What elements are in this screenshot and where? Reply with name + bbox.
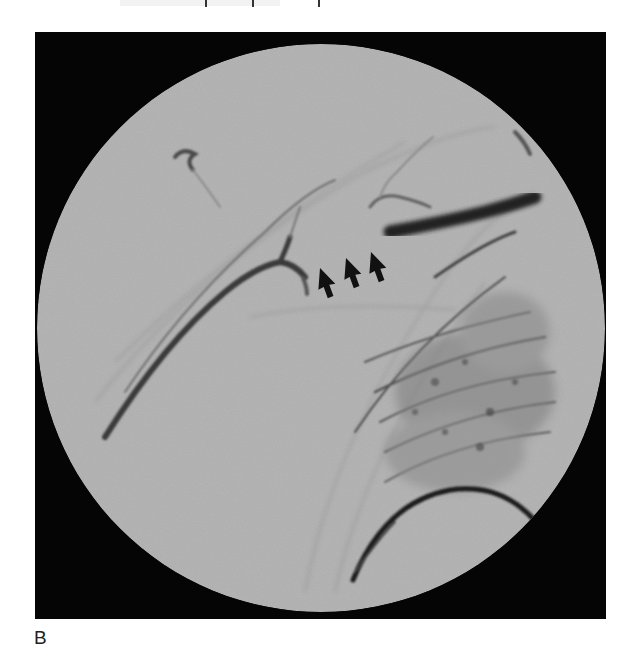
field-of-view [37, 44, 605, 612]
panel-label: B [34, 628, 47, 647]
angiogram-figure [35, 32, 606, 619]
cropped-text-residue [0, 0, 633, 14]
